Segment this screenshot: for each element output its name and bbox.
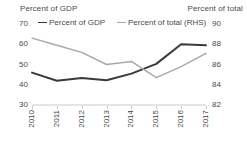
legend-line-swatch-icon [38,22,47,23]
x-axis-labels: 20102011201220132014201520162017 [32,106,206,142]
plot-area [32,24,206,105]
x-axis-tick-mark [57,106,58,109]
legend-line-swatch-icon [117,22,126,23]
x-axis-tick-mark [181,106,182,109]
x-axis-tick-label: 2017 [202,110,210,128]
x-axis-tick-label: 2012 [78,110,86,128]
x-axis-tick-mark [82,106,83,109]
x-axis-tick-label: 2013 [103,110,111,128]
chart-container: Percent of GDP Percent of total Percent … [0,0,247,142]
x-axis-tick-mark [32,106,33,109]
plot-svg [32,24,206,105]
x-axis-tick-label: 2011 [53,110,61,127]
y-axis-tick-label: 40 [6,81,28,89]
x-axis-tick-label: 2015 [152,110,160,128]
x-axis-tick-mark [156,106,157,109]
x-axis-tick-mark [131,106,132,109]
right-axis-title: Percent of total [188,4,243,13]
x-axis-tick-label: 2016 [177,110,185,128]
x-axis-tick-mark [206,106,207,109]
y2-axis-tick-label: 84 [212,81,234,89]
right-y-axis-labels: 8284868890 [212,24,234,105]
y2-axis-tick-label: 88 [212,40,234,48]
y2-axis-tick-label: 86 [212,61,234,69]
y-axis-tick-label: 60 [6,40,28,48]
y2-axis-tick-label: 90 [212,20,234,28]
x-axis-tick-mark [107,106,108,109]
x-axis-tick-label: 2010 [28,110,36,128]
left-y-axis-labels: 3040506070 [6,24,28,105]
y-axis-tick-label: 70 [6,20,28,28]
left-axis-title: Percent of GDP [20,4,77,13]
y-axis-tick-label: 50 [6,61,28,69]
y-axis-tick-label: 30 [6,101,28,109]
x-axis-tick-label: 2014 [127,110,135,128]
y2-axis-tick-label: 82 [212,101,234,109]
